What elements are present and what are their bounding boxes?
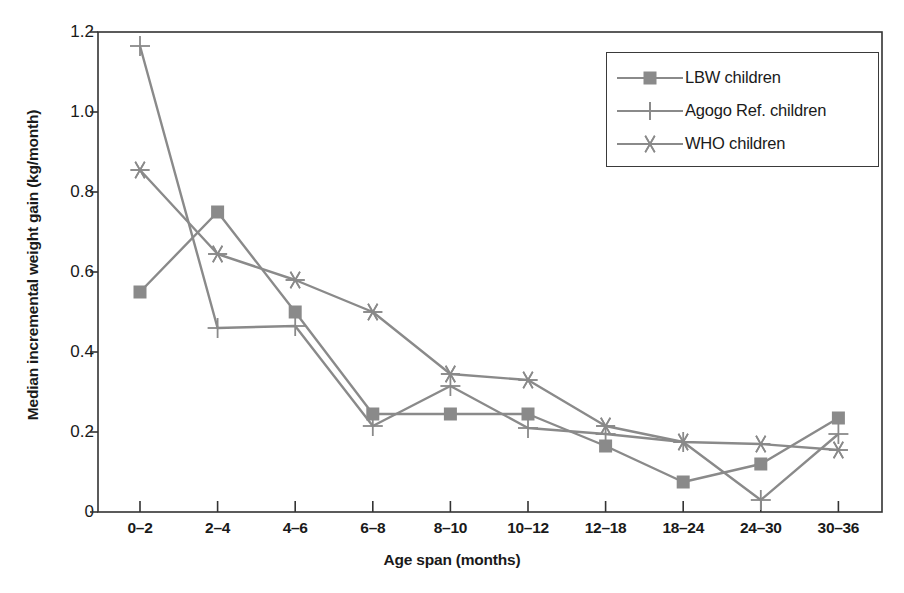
x-axis-tick-label: 18–24 [648, 519, 718, 537]
series-line [140, 212, 838, 482]
data-point-marker-square [754, 458, 767, 471]
chart-legend: LBW children Agogo Ref. children WHO chi… [606, 52, 879, 167]
legend-item-label: WHO children [685, 134, 785, 153]
legend-marker-star-icon [615, 133, 685, 155]
legend-item-label: Agogo Ref. children [685, 101, 826, 120]
x-axis-tick-label: 6–8 [338, 519, 408, 537]
x-axis-tick-label: 0–2 [105, 519, 175, 537]
x-axis-title: Age span (months) [0, 551, 904, 569]
data-point-marker-square [677, 476, 690, 489]
chart-figure: Median incremental weight gain (kg/month… [0, 0, 904, 593]
x-axis-tick-label: 2–4 [183, 519, 253, 537]
legend-marker-plus-icon [615, 100, 685, 122]
x-axis-tick-label: 12–18 [571, 519, 641, 537]
x-axis-tick-label: 8–10 [415, 519, 485, 537]
data-point-marker-square [211, 206, 224, 219]
legend-item[interactable]: Agogo Ref. children [615, 94, 878, 127]
data-point-marker-square [444, 408, 457, 421]
legend-marker-square-icon [615, 67, 685, 89]
x-axis-tick-label: 4–6 [260, 519, 330, 537]
x-axis-tick-label: 24–30 [726, 519, 796, 537]
legend-item[interactable]: LBW children [615, 61, 878, 94]
star-icon [639, 133, 661, 155]
x-axis-tick-label: 10–12 [493, 519, 563, 537]
legend-item-label: LBW children [685, 68, 781, 87]
series-lbw-children [134, 206, 845, 489]
data-point-marker-square [832, 412, 845, 425]
legend-item[interactable]: WHO children [615, 127, 878, 160]
x-axis-tick-label: 30–36 [803, 519, 873, 537]
x-axis-tick-labels: 0–22–44–66–88–1010–1212–1818–2424–3030–3… [0, 519, 904, 547]
data-point-marker-square [134, 286, 147, 299]
